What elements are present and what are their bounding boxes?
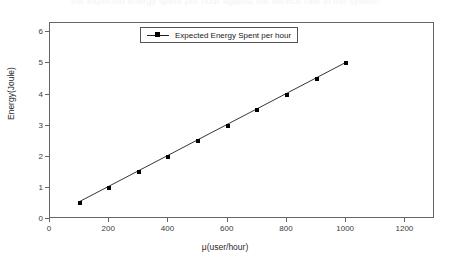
legend-marker-icon <box>147 31 169 40</box>
y-tick-label: 0 <box>39 214 43 223</box>
data-point-marker <box>78 201 82 205</box>
legend-label: Expected Energy Spent per hour <box>175 31 291 40</box>
x-tick <box>49 218 50 222</box>
x-tick-label: 600 <box>220 224 233 233</box>
data-point-marker <box>255 108 259 112</box>
x-tick <box>286 218 287 222</box>
y-tick-label: 4 <box>39 89 43 98</box>
y-tick <box>45 187 49 188</box>
y-axis-label: Energy(Joule) <box>6 67 16 120</box>
y-tick <box>45 218 49 219</box>
plot-area <box>49 22 434 218</box>
x-tick-label: 400 <box>161 224 174 233</box>
data-point-marker <box>226 124 230 128</box>
y-tick-label: 5 <box>39 58 43 67</box>
y-tick-label: 3 <box>39 120 43 129</box>
y-tick <box>45 31 49 32</box>
data-point-marker <box>166 155 170 159</box>
caption-remnant-text: the expected energy spent per hour again… <box>0 0 450 6</box>
y-tick-label: 6 <box>39 27 43 36</box>
y-tick <box>45 62 49 63</box>
chart-legend: Expected Energy Spent per hour <box>140 27 298 43</box>
data-point-marker <box>344 61 348 65</box>
x-tick-label: 1000 <box>336 224 354 233</box>
x-tick <box>404 218 405 222</box>
x-tick <box>227 218 228 222</box>
chart-figure: the expected energy spent per hour again… <box>0 0 450 267</box>
y-tick-label: 1 <box>39 182 43 191</box>
x-axis-label: μ(user/hour) <box>0 242 450 252</box>
data-point-marker <box>196 139 200 143</box>
data-point-marker <box>137 170 141 174</box>
data-point-marker <box>285 93 289 97</box>
y-tick <box>45 156 49 157</box>
x-tick <box>167 218 168 222</box>
data-point-marker <box>107 186 111 190</box>
y-tick-label: 2 <box>39 151 43 160</box>
x-tick-label: 200 <box>102 224 115 233</box>
x-tick <box>345 218 346 222</box>
series-line <box>79 63 344 202</box>
x-tick-label: 1200 <box>395 224 413 233</box>
data-point-marker <box>315 77 319 81</box>
y-tick <box>45 94 49 95</box>
x-tick-label: 0 <box>47 224 51 233</box>
x-tick <box>108 218 109 222</box>
x-tick-label: 800 <box>279 224 292 233</box>
y-tick <box>45 125 49 126</box>
